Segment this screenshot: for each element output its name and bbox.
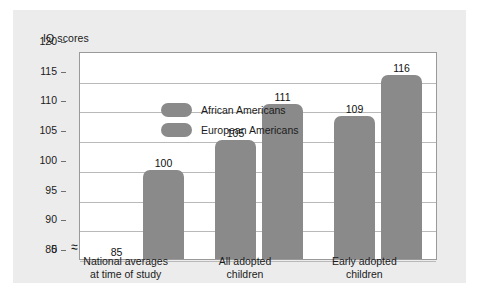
bar: [215, 140, 256, 259]
y-axis-tick-mark: [61, 72, 66, 73]
legend-label: European Americans: [201, 124, 298, 136]
chart-legend: African Americans European Americans: [161, 101, 298, 141]
axis-break-symbol: ≈: [71, 240, 78, 255]
y-axis-zero-label: 0: [25, 243, 57, 255]
legend-item-european-americans: European Americans: [161, 121, 298, 138]
y-axis-tick-label: 110: [25, 94, 57, 106]
y-axis-tick-label: 95: [25, 184, 57, 196]
y-axis-tick-mark: [61, 101, 66, 102]
y-axis-tick-mark: [61, 191, 66, 192]
bar-value-label: 100: [137, 157, 190, 169]
x-axis-category-line: Early adopted: [294, 255, 434, 268]
y-axis-tick-label: 90: [25, 213, 57, 225]
x-axis-category-line: children: [294, 268, 434, 281]
y-axis-zero-tick-mark: [61, 250, 66, 251]
plot-area: 85100105111109116 African Americans Euro…: [79, 52, 437, 260]
legend-item-african-americans: African Americans: [161, 101, 298, 118]
y-axis-tick-label: 100: [25, 154, 57, 166]
y-axis-tick-label: 120: [25, 35, 57, 47]
chart-panel: IQ scores 8590951001051101151200 ≈ 85100…: [13, 10, 466, 283]
y-axis-tick-label: 105: [25, 124, 57, 136]
legend-swatch-icon: [161, 103, 192, 117]
bar: [334, 116, 375, 259]
bar-value-label: 109: [328, 103, 381, 115]
legend-swatch-icon: [161, 123, 192, 137]
legend-label: African Americans: [201, 104, 286, 116]
y-axis-tick-mark: [61, 42, 66, 43]
chart-figure: IQ scores 8590951001051101151200 ≈ 85100…: [0, 0, 479, 299]
y-axis-tick-mark: [61, 161, 66, 162]
y-axis-tick-mark: [61, 131, 66, 132]
y-axis-tick-mark: [61, 220, 66, 221]
y-axis-tick-label: 115: [25, 65, 57, 77]
bar: [381, 75, 422, 259]
bar: [143, 170, 184, 259]
bar-value-label: 116: [375, 62, 428, 74]
x-axis-category-label: Early adoptedchildren: [294, 255, 434, 281]
